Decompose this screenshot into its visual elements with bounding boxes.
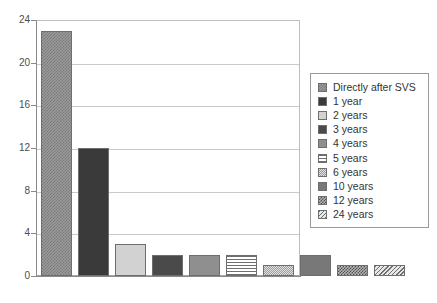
bar-1-year [78, 148, 109, 276]
legend-label: 24 years [333, 209, 373, 220]
legend-swatch-icon [318, 111, 327, 120]
bar-4-years [189, 255, 220, 276]
legend-label: 6 years [333, 167, 367, 178]
bar-3-years [152, 255, 183, 276]
y-tick-label-12: 12 [6, 143, 30, 153]
legend-item-24-years: 24 years [318, 208, 423, 222]
chart-legend: Directly after SVS 1 year 2 years 3 year… [310, 73, 429, 228]
y-axis-tick-labels: 24 20 16 12 8 4 0 [0, 0, 30, 303]
legend-item-3-years: 3 years [318, 123, 423, 137]
legend-swatch-icon [318, 154, 327, 163]
legend-label: 10 years [333, 181, 373, 192]
legend-item-directly-after-svs: Directly after SVS [318, 80, 423, 94]
bar-24-years [374, 265, 405, 276]
legend-label: 3 years [333, 124, 367, 135]
legend-item-5-years: 5 years [318, 151, 423, 165]
bar-5-years [226, 255, 257, 276]
bar-12-years [337, 265, 368, 276]
bar-2-years [115, 244, 146, 276]
y-tick-label-20: 20 [6, 58, 30, 68]
y-tick-label-0: 0 [6, 271, 30, 281]
x-axis-line [36, 276, 301, 277]
bar-10-years [300, 255, 331, 276]
bar-group [36, 20, 300, 276]
legend-label: 4 years [333, 138, 367, 149]
legend-swatch-icon [318, 168, 327, 177]
legend-item-1-year: 1 year [318, 94, 423, 108]
legend-swatch-icon [318, 97, 327, 106]
y-tick-label-4: 4 [6, 228, 30, 238]
legend-label: 1 year [333, 96, 362, 107]
legend-label: Directly after SVS [333, 82, 416, 93]
legend-item-10-years: 10 years [318, 179, 423, 193]
legend-label: 5 years [333, 153, 367, 164]
legend-swatch-icon [318, 125, 327, 134]
legend-item-6-years: 6 years [318, 165, 423, 179]
legend-item-12-years: 12 years [318, 194, 423, 208]
y-tick-label-16: 16 [6, 100, 30, 110]
legend-swatch-icon [318, 83, 327, 92]
legend-item-2-years: 2 years [318, 108, 423, 122]
bar-chart: 24 20 16 12 8 4 0 Dir [0, 0, 437, 303]
legend-label: 2 years [333, 110, 367, 121]
legend-label: 12 years [333, 195, 373, 206]
legend-swatch-icon [318, 182, 327, 191]
bar-6-years [263, 265, 294, 276]
legend-swatch-icon [318, 196, 327, 205]
legend-item-4-years: 4 years [318, 137, 423, 151]
y-tick-label-8: 8 [6, 186, 30, 196]
bar-directly-after-svs [41, 31, 72, 276]
legend-swatch-icon [318, 210, 327, 219]
legend-swatch-icon [318, 139, 327, 148]
y-tick-label-24: 24 [6, 15, 30, 25]
